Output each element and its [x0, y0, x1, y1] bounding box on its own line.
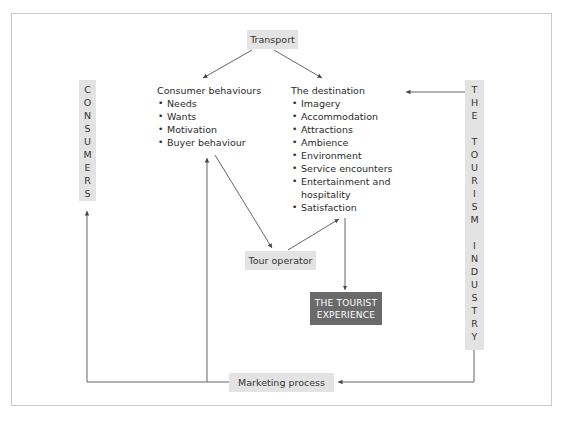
industry-letter: M: [470, 213, 478, 226]
list-item: Attractions: [291, 123, 403, 136]
consumers-letter: R: [84, 174, 91, 187]
industry-letter: I: [473, 239, 476, 252]
list-item: Environment: [291, 149, 403, 162]
industry-letter: R: [471, 317, 478, 330]
list-item: Ambience: [291, 136, 403, 149]
list-item: Buyer behaviour: [157, 136, 282, 149]
tourism-industry-bar: T H E T O U R I S M I N D U S T R Y: [465, 80, 484, 350]
list-item: Needs: [157, 97, 282, 110]
consumers-letter: U: [84, 135, 91, 148]
industry-letter: T: [472, 83, 478, 96]
industry-letter: U: [471, 278, 478, 291]
list-item: Wants: [157, 110, 282, 123]
industry-letter: S: [471, 291, 477, 304]
consumers-bar: C O N S U M E R S: [79, 80, 96, 201]
industry-letter: N: [471, 252, 478, 265]
list-item: Satisfaction: [291, 201, 403, 214]
consumers-letter: M: [83, 148, 91, 161]
industry-letter: O: [471, 148, 478, 161]
transport-label: Transport: [250, 34, 295, 45]
industry-letter: E: [471, 109, 477, 122]
list-item: Entertainment and hospitality: [291, 175, 403, 201]
tourist-experience-box: THE TOURIST EXPERIENCE: [310, 292, 382, 325]
destination-list: The destination Imagery Accommodation At…: [291, 84, 403, 214]
consumers-letter: C: [84, 83, 91, 96]
consumers-letter: S: [84, 122, 90, 135]
tour-operator-label: Tour operator: [249, 255, 313, 266]
tour-operator-box: Tour operator: [245, 251, 316, 270]
industry-letter: U: [471, 161, 478, 174]
list-item: Service encounters: [291, 162, 403, 175]
consumers-letter: N: [84, 109, 91, 122]
industry-letter: H: [471, 96, 478, 109]
consumer-behaviours-heading: Consumer behaviours: [157, 84, 282, 97]
list-item: Motivation: [157, 123, 282, 136]
marketing-process-label: Marketing process: [238, 377, 325, 388]
list-item: Imagery: [291, 97, 403, 110]
marketing-process-box: Marketing process: [229, 373, 334, 392]
transport-box: Transport: [247, 30, 298, 49]
consumers-letter: O: [84, 96, 91, 109]
industry-letter: T: [472, 135, 478, 148]
consumers-letter: E: [84, 161, 90, 174]
industry-letter: R: [471, 174, 478, 187]
tourist-experience-label: THE TOURIST EXPERIENCE: [314, 297, 378, 321]
industry-letter: S: [471, 200, 477, 213]
list-item: Accommodation: [291, 110, 403, 123]
consumers-letter: S: [84, 187, 90, 200]
industry-letter: D: [471, 265, 478, 278]
consumer-behaviours-list: Consumer behaviours Needs Wants Motivati…: [157, 84, 282, 149]
industry-letter: T: [472, 304, 478, 317]
industry-letter: Y: [472, 330, 478, 343]
destination-heading: The destination: [291, 84, 403, 97]
industry-letter: I: [473, 187, 476, 200]
